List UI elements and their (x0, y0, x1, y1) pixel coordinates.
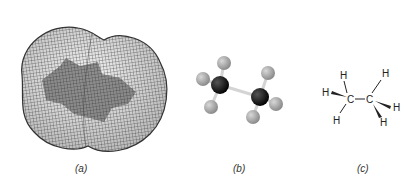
carbon-atom (211, 76, 229, 94)
hydrogen-atom (204, 100, 218, 114)
hydrogen-atom (269, 97, 283, 111)
svg-text:H: H (322, 87, 329, 98)
panel-c-structural-formula: H H C H H C H H (c) (300, 0, 414, 184)
svg-text:H: H (380, 117, 387, 128)
ball-and-stick-model-graphic (180, 0, 300, 184)
hydrogen-atom (217, 56, 231, 70)
svg-text:H: H (393, 102, 400, 113)
svg-text:C: C (347, 94, 354, 105)
svg-text:H: H (382, 68, 389, 79)
panel-b-ball-and-stick: (b) (180, 0, 300, 184)
carbon-atom (251, 88, 269, 106)
electron-density-mesh-graphic (0, 0, 180, 184)
hydrogen-atom (246, 110, 260, 124)
svg-text:C: C (366, 94, 373, 105)
panel-a-label: (a) (75, 163, 87, 174)
hydrogen-atom (261, 66, 275, 80)
panel-a-electron-density: (a) (0, 0, 180, 184)
svg-text:H: H (333, 115, 340, 126)
svg-text:H: H (340, 70, 347, 81)
panel-b-label: (b) (233, 163, 245, 174)
panel-c-label: (c) (357, 163, 369, 174)
hydrogen-atom (196, 72, 210, 86)
structural-formula-graphic: H H C H H C H H (300, 0, 414, 184)
